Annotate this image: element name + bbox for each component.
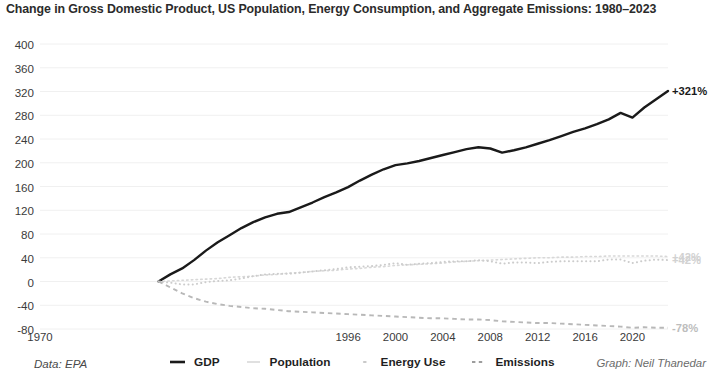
legend-label-gdp: GDP: [194, 355, 220, 369]
legend-item-emissions[interactable]: Emissions: [471, 355, 554, 369]
legend-item-energy-use[interactable]: Energy Use: [357, 355, 446, 369]
series-line-population: [158, 256, 668, 282]
solid-line-icon: [170, 357, 188, 367]
chart-legend: GDP Population Energy Use: [170, 355, 554, 369]
x-axis-tick-label: 2004: [430, 331, 455, 343]
y-axis-tick-label: 0: [0, 275, 34, 288]
page-title: Change in Gross Domestic Product, US Pop…: [6, 2, 712, 16]
data-source-note: Data: EPA: [34, 357, 87, 370]
y-axis-tick-label: 400: [0, 38, 34, 51]
y-axis-tick-label: -40: [0, 299, 34, 312]
graph-credit-note: Graph: Neil Thanedar: [596, 357, 706, 369]
legend-item-gdp[interactable]: GDP: [170, 355, 220, 369]
x-axis-tick-label: 1996: [335, 331, 360, 343]
y-axis-tick-label: 120: [0, 204, 34, 217]
y-axis-tick-label: 160: [0, 180, 34, 193]
y-axis-tick-label: 360: [0, 61, 34, 74]
end-value-label-gdp: +321%: [672, 85, 707, 97]
x-axis-tick-label: 2012: [525, 331, 550, 343]
y-axis-tick-label: 320: [0, 85, 34, 98]
series-canvas: [40, 44, 668, 329]
x-axis-tick-label: 2020: [620, 331, 645, 343]
x-axis-tick-label: 1970: [27, 331, 52, 343]
legend-label-energy-use: Energy Use: [381, 355, 446, 369]
dashed-line-icon: [471, 357, 489, 367]
plot-area: [40, 44, 668, 329]
series-line-energy-use: [158, 260, 668, 285]
chart-footer: Data: EPA GDP Population: [0, 352, 712, 379]
y-axis-tick-label: 40: [0, 251, 34, 264]
gridlines: [40, 44, 668, 329]
legend-item-population[interactable]: Population: [246, 355, 331, 369]
y-axis-tick-label: 240: [0, 133, 34, 146]
legend-label-population: Population: [270, 355, 331, 369]
series-line-emissions: [158, 282, 668, 328]
end-value-label-emissions: -78%: [672, 322, 698, 334]
chart-figure: Change in Gross Domestic Product, US Pop…: [0, 0, 712, 379]
faint-dash-icon: [246, 357, 264, 367]
dotted-line-icon: [357, 357, 375, 367]
y-axis-tick-label: 80: [0, 228, 34, 241]
y-axis-tick-label: 200: [0, 156, 34, 169]
x-axis-tick-label: 2008: [478, 331, 503, 343]
end-value-label-energy-use: +42%: [672, 254, 701, 266]
x-axis-tick-label: 2016: [572, 331, 597, 343]
x-axis-tick-label: 2000: [383, 331, 408, 343]
legend-label-emissions: Emissions: [495, 355, 554, 369]
data-series-layer: [158, 91, 668, 328]
y-axis-tick-label: 280: [0, 109, 34, 122]
